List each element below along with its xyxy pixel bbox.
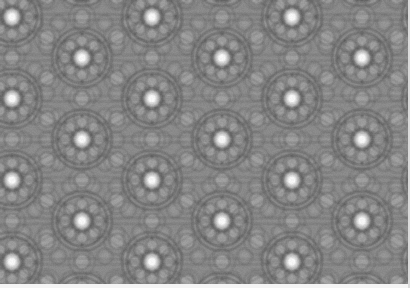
quasiperiodic-tiling-pattern — [0, 0, 410, 288]
pattern-image-stage — [0, 0, 410, 288]
